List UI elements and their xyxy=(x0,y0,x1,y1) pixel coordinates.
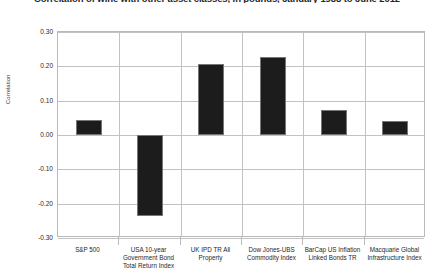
y-axis-tick-label: 0.30 xyxy=(23,28,53,35)
plot-area xyxy=(57,31,425,237)
x-axis-category-label: Macquarie Global Infrastructure Index xyxy=(364,246,425,262)
category-tick xyxy=(118,237,119,245)
y-axis-tick-label: -0.20 xyxy=(23,199,53,206)
gridline-horizontal xyxy=(58,101,424,102)
x-axis-category-label: UK IPD TR All Property xyxy=(180,246,241,262)
y-axis-tick-labels: 0.300.200.100.00-0.10-0.20-0.30 xyxy=(20,31,53,237)
gridline-horizontal xyxy=(58,204,424,205)
gridline-horizontal xyxy=(58,66,424,67)
bar xyxy=(382,121,408,135)
gridline-horizontal xyxy=(58,169,424,170)
gridline-vertical xyxy=(242,32,243,236)
gridline-vertical xyxy=(181,32,182,236)
x-axis-category-label: S&P 500 xyxy=(57,246,118,254)
y-axis-tick-label: 0.10 xyxy=(23,96,53,103)
correlation-bar-chart: Correlation of wine with other asset cla… xyxy=(0,0,434,280)
x-axis-category-label: USA 10-year Government Bond Total Return… xyxy=(118,246,179,271)
y-axis-tick-label: -0.30 xyxy=(23,234,53,241)
category-tick xyxy=(364,237,365,245)
gridline-horizontal xyxy=(58,135,424,136)
category-tick xyxy=(180,237,181,245)
bar xyxy=(76,120,102,135)
x-axis-category-label: Dow Jones-UBS Commodity Index xyxy=(241,246,302,262)
y-axis-tick-label: 0.00 xyxy=(23,131,53,138)
x-axis-category-label: BarCap US Inflation Linked Bonds TR xyxy=(302,246,363,262)
category-tick xyxy=(241,237,242,245)
gridline-vertical xyxy=(365,32,366,236)
category-tick-marks xyxy=(57,237,425,245)
y-axis-tick-label: 0.20 xyxy=(23,62,53,69)
chart-title: Correlation of wine with other asset cla… xyxy=(0,0,434,3)
bar xyxy=(321,110,347,135)
y-axis-title: Correlation xyxy=(5,90,11,104)
bar xyxy=(137,135,163,216)
gridline-vertical xyxy=(119,32,120,236)
y-axis-tick-label: -0.10 xyxy=(23,165,53,172)
gridline-horizontal xyxy=(58,32,424,33)
bar xyxy=(260,57,286,135)
category-tick xyxy=(302,237,303,245)
gridline-vertical xyxy=(303,32,304,236)
bar xyxy=(198,64,224,135)
x-axis-category-labels: S&P 500USA 10-year Government Bond Total… xyxy=(57,246,425,280)
